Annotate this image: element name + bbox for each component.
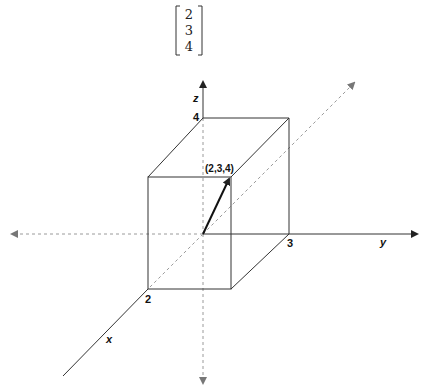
dashed-axes bbox=[12, 83, 354, 383]
y-tick-label: 3 bbox=[287, 237, 293, 249]
diagram-canvas bbox=[0, 0, 423, 391]
y-axis-label: y bbox=[380, 236, 386, 248]
z-tick-label: 4 bbox=[193, 111, 199, 123]
solid-axes bbox=[63, 82, 417, 376]
x-axis-label: x bbox=[106, 333, 112, 345]
x-tick-label: 2 bbox=[145, 293, 151, 305]
column-vector-matrix: 2 3 4 bbox=[176, 6, 202, 54]
matrix-entry: 4 bbox=[176, 39, 202, 55]
z-axis-label: z bbox=[193, 92, 199, 104]
matrix-entry: 3 bbox=[176, 23, 202, 39]
matrix-entry: 2 bbox=[176, 7, 202, 23]
vector-3d-diagram: 2 3 4 z 4 y 3 x 2 (2,3,4) bbox=[0, 0, 423, 391]
vector-point-label: (2,3,4) bbox=[205, 163, 234, 175]
vector-arrow bbox=[203, 179, 229, 234]
